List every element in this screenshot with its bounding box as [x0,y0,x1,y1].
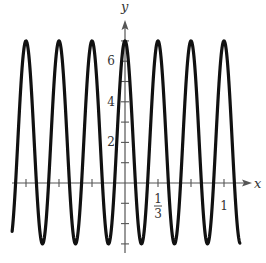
y-tick-label: 2 [107,135,115,149]
y-tick-labels: 246 [107,54,115,149]
chart: x y 131 246 [0,0,266,263]
y-axis-label: y [120,0,129,14]
x-tick-labels: 131 [154,192,228,221]
y-tick-label: 4 [107,95,115,109]
x-tick-label-numerator: 1 [154,192,162,206]
x-axis-label: x [254,176,262,191]
y-tick-label: 6 [107,54,115,68]
x-tick-label: 1 [220,199,228,213]
x-tick-label-denominator: 3 [154,207,162,221]
